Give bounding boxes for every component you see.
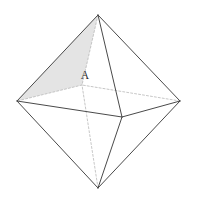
octahedron-canvas: A [0, 0, 197, 205]
vertex-label-group: A [81, 69, 90, 81]
label-a: A [81, 69, 90, 81]
octahedron-figure: A [0, 0, 197, 205]
